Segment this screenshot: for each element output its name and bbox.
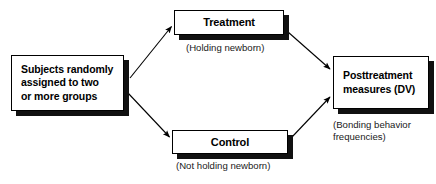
experimental-design-diagram: Subjects randomly assigned to two or mor… bbox=[0, 0, 436, 184]
node-treatment: Treatment bbox=[174, 10, 284, 35]
node-control: Control bbox=[172, 130, 288, 154]
caption-posttreatment: (Bonding behavior frequencies) bbox=[333, 119, 436, 144]
node-subjects-randomly-assigned: Subjects randomly assigned to two or mor… bbox=[11, 55, 124, 111]
caption-control: (Not holding newborn) bbox=[176, 160, 326, 172]
arrow-control-to-posttreatment bbox=[292, 97, 330, 137]
arrow-subjects-to-control bbox=[128, 93, 170, 137]
arrow-subjects-to-treatment bbox=[130, 27, 172, 79]
node-subjects-label: Subjects randomly assigned to two or mor… bbox=[12, 63, 113, 103]
caption-treatment: (Holding newborn) bbox=[186, 42, 316, 54]
node-posttreatment-label: Posttreatment measures (DV) bbox=[334, 69, 415, 96]
node-posttreatment-measures: Posttreatment measures (DV) bbox=[333, 56, 429, 109]
node-treatment-label: Treatment bbox=[203, 15, 255, 29]
node-control-label: Control bbox=[211, 135, 249, 149]
